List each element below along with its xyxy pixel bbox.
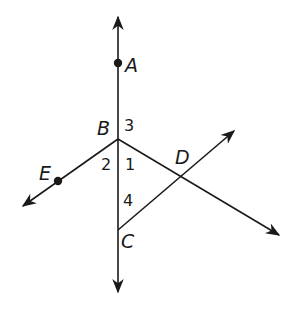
angle-1-label: 1: [125, 155, 135, 174]
label-c: C: [121, 230, 135, 252]
point-a-dot: [114, 59, 122, 67]
label-b: B: [97, 117, 110, 139]
angle-2-label: 2: [101, 155, 111, 174]
label-d: D: [175, 146, 190, 168]
angle-4-label: 4: [123, 191, 133, 210]
angle-3-label: 3: [124, 116, 134, 135]
ray-bd: [118, 139, 279, 235]
point-e-dot: [54, 177, 62, 185]
geometry-diagram: A B C D E 3 2 1 4: [0, 0, 288, 312]
label-e: E: [39, 162, 51, 184]
label-a: A: [123, 54, 138, 76]
